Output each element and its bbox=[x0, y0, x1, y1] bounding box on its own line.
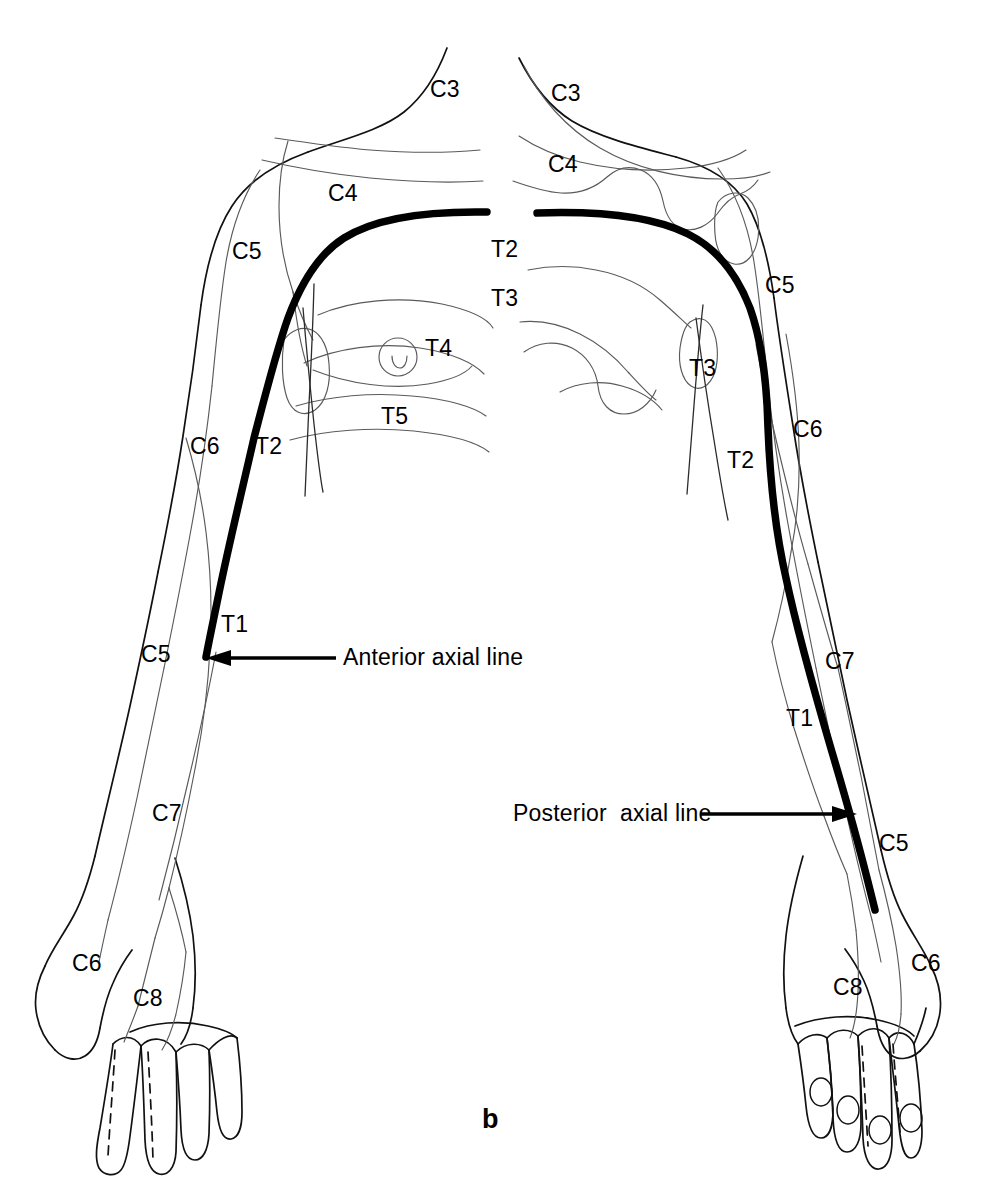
panel-letter: b bbox=[482, 1106, 499, 1133]
label-right-c6-arm: C6 bbox=[793, 418, 823, 441]
label-mid-t3: T3 bbox=[491, 287, 518, 310]
label-mid-t4: T4 bbox=[425, 337, 452, 360]
left-body-outline bbox=[35, 48, 447, 1059]
label-left-c3-neck: C3 bbox=[430, 78, 460, 101]
right-hand-outline bbox=[784, 856, 926, 1169]
label-right-t1-forearm: T1 bbox=[786, 707, 813, 730]
anterior-axial-line-path bbox=[206, 212, 487, 657]
label-right-t3-axilla: T3 bbox=[689, 357, 716, 380]
label-left-c5-forearm: C5 bbox=[141, 643, 171, 666]
anterior-axial-line-arrow bbox=[206, 650, 336, 666]
posterior-axial-line-arrow bbox=[700, 806, 857, 822]
label-left-c5-shoulder: C5 bbox=[232, 240, 262, 263]
dermatome-figure: C3 C4 C5 C6 T2 T1 C5 C7 C6 C8 T2 T3 T4 T… bbox=[0, 0, 1000, 1188]
left-hand-outline bbox=[96, 858, 242, 1175]
label-left-c6-hand: C6 bbox=[72, 952, 102, 975]
label-right-c5-forearm: C5 bbox=[879, 832, 909, 855]
label-mid-t2: T2 bbox=[491, 238, 518, 261]
annotation-posterior-axial-line: Posterior axial line bbox=[513, 802, 712, 825]
right-hand-dash-lines bbox=[862, 1044, 900, 1146]
label-right-c3-neck: C3 bbox=[551, 82, 581, 105]
label-right-t2-arm: T2 bbox=[727, 449, 754, 472]
label-right-c5-shoulder: C5 bbox=[765, 274, 795, 297]
left-arm-dermatome-lines bbox=[99, 170, 260, 1050]
label-left-t2-arm: T2 bbox=[255, 435, 282, 458]
label-right-c7-elbow: C7 bbox=[825, 650, 855, 673]
annotation-anterior-axial-line: Anterior axial line bbox=[343, 646, 523, 669]
label-right-c8-hand: C8 bbox=[833, 976, 863, 999]
label-left-c4-chest: C4 bbox=[328, 182, 358, 205]
left-chest-dermatome-lines bbox=[262, 138, 493, 496]
label-left-c7-forearm: C7 bbox=[152, 802, 182, 825]
label-right-c4-back: C4 bbox=[548, 153, 578, 176]
label-left-c6-arm: C6 bbox=[190, 435, 220, 458]
label-left-t1-arm: T1 bbox=[221, 613, 248, 636]
left-hand-dash-lines bbox=[108, 1050, 153, 1160]
label-mid-t5: T5 bbox=[381, 405, 408, 428]
label-left-c8-hand: C8 bbox=[133, 987, 163, 1010]
label-right-c6-hand: C6 bbox=[911, 952, 941, 975]
